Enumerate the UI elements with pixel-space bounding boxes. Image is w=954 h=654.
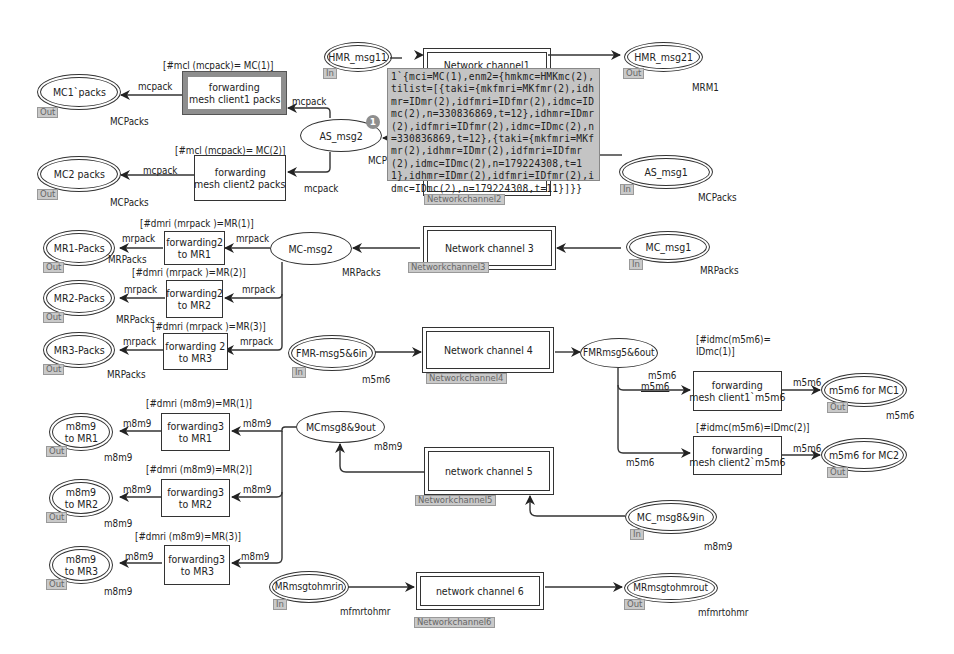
guard-label: IDmc(1)]: [696, 346, 735, 357]
transition-forwarding3-to-mr1[interactable]: forwarding3 to MR1: [161, 413, 230, 451]
port-tag-out: Out: [43, 364, 64, 375]
transition-forwarding2-to-mr1[interactable]: forwarding2 to MR1: [164, 231, 225, 265]
place-m5m6-for-mc1[interactable]: m5m6 for MC1: [824, 376, 904, 404]
substitution-network-channel-4[interactable]: Network channel 4: [426, 331, 550, 369]
place-mc-msg1[interactable]: MC_msg1: [629, 234, 707, 260]
arc-label: mrpack: [236, 233, 269, 244]
arc-label: mrpack: [242, 284, 275, 295]
guard-label: [#dmri (mrpack )=MR(2)]: [132, 267, 246, 278]
arc-label: mrpack: [122, 233, 155, 244]
place-mr1-packs[interactable]: MR1-Packs: [46, 233, 112, 263]
colorset-label: MRM1: [692, 82, 719, 93]
place-hmr-msg11[interactable]: HMR_msg11: [327, 45, 389, 69]
port-tag-out: Out: [624, 599, 645, 610]
arc-mc89in-nc5: [530, 496, 625, 516]
place-mrmsgtohmrin[interactable]: MRmsgtohmrin: [272, 574, 346, 600]
place-m8m9-to-mr2[interactable]: m8m9 to MR2: [52, 482, 110, 514]
place-mr3-packs[interactable]: MR3-Packs: [46, 335, 112, 365]
colorset-label: m8m9: [104, 518, 132, 529]
colorset-label: m8m9: [704, 541, 732, 552]
colorset-label: MRPacks: [108, 254, 147, 265]
arc-label: mrpack: [123, 336, 156, 347]
subpage-tag: Networkchannel4: [426, 373, 507, 384]
guard-label: [#dmri (mrpack )=MR(3)]: [152, 321, 266, 332]
transition-forwarding-mesh-client1-packs[interactable]: forwarding mesh client1 packs: [183, 72, 286, 114]
guard-label: [#mcl (mcpack)= MC(1)]: [163, 60, 273, 71]
colorset-label: mfmrtohmr: [698, 607, 748, 618]
place-mrmsgtohmrout[interactable]: MRmsgtohmrout: [627, 576, 715, 600]
arc-label: m8m9: [123, 418, 151, 429]
guard-label: [#idmc(m5m6)=: [696, 334, 771, 345]
substitution-network-channel-5[interactable]: network channel 5: [428, 451, 550, 491]
port-tag-out: Out: [623, 68, 644, 79]
place-mc-msg8-9in[interactable]: MC_msg8&9in: [628, 503, 714, 531]
port-tag-out: Out: [46, 579, 67, 590]
place-mc1-packs[interactable]: MC1`packs: [40, 77, 118, 107]
arc-label: m8m9: [123, 484, 151, 495]
arc-label: m8m9: [125, 551, 153, 562]
arc-label: m5m6: [793, 377, 821, 388]
transition-forwarding3-to-mr3[interactable]: forwarding3 to MR3: [164, 545, 230, 585]
port-tag-out: Out: [37, 189, 58, 200]
place-m8m9-to-mr3[interactable]: m8m9 to MR3: [52, 549, 110, 581]
subpage-tag: Networkchannel3: [408, 262, 489, 273]
guard-label: [#dmri (m8m9)=MR(1)]: [146, 398, 252, 409]
colorset-label: m8m9: [104, 586, 132, 597]
colorset-label: m8m9: [374, 441, 402, 452]
colorset-label: MRPacks: [700, 265, 739, 276]
place-mc2-packs[interactable]: MC2 packs: [40, 159, 118, 189]
arc-label: m5m6: [626, 457, 654, 468]
arc-label: mcpack: [143, 165, 177, 176]
place-mcmsg8-9out[interactable]: MCmsg8&9out: [296, 411, 385, 443]
transition-forwarding3-to-mr2[interactable]: forwarding3 to MR2: [161, 479, 230, 517]
transition-forwarding2-to-mr2[interactable]: forwarding2 to MR2: [166, 280, 223, 318]
subpage-tag: Networkchannel6: [414, 617, 495, 628]
substitution-network-channel-6[interactable]: network channel 6: [420, 576, 540, 606]
arc-asmsg2-fwd2: [288, 152, 330, 172]
port-tag-out: Out: [43, 262, 64, 273]
port-tag-in: In: [292, 367, 306, 378]
place-hmr-msg21[interactable]: HMR_msg21: [627, 45, 700, 69]
place-m5m6-for-mc2[interactable]: m5m6 for MC2: [824, 441, 904, 469]
transition-forwarding-mesh-client2-packs[interactable]: forwarding mesh client2 packs: [194, 155, 286, 201]
port-tag-in: In: [323, 68, 337, 79]
arc-label: m8m9: [243, 418, 271, 429]
arc-label: mcpack: [292, 96, 326, 107]
arc-label: m8m9: [241, 551, 269, 562]
transition-forwarding-mesh-client1-m5m6[interactable]: forwarding mesh client1`m5m6: [693, 371, 782, 411]
colorset-label: MRPacks: [107, 369, 146, 380]
port-tag-out: Out: [43, 312, 64, 323]
arc-asmsg2-fwd1: [288, 108, 330, 118]
guard-label: [#dmri (m8m9)=MR(3)]: [135, 531, 241, 542]
port-tag-out: Out: [46, 512, 67, 523]
arc-label: mcpack: [304, 183, 338, 194]
subpage-tag: Networkchannel2: [424, 194, 505, 205]
colorset-label: m5m6: [886, 410, 914, 421]
arc-label: m5m6: [793, 443, 821, 454]
colorset-label: m8m9: [104, 452, 132, 463]
colorset-label: MCPacks: [698, 192, 737, 203]
substitution-network-channel-3[interactable]: Network channel 3: [427, 230, 552, 266]
colorset-label: MCPacks: [110, 116, 149, 127]
arc-label: mcpack: [138, 81, 172, 92]
place-as-msg1[interactable]: AS_msg1: [622, 158, 710, 186]
place-mr2-packs[interactable]: MR2-Packs: [46, 283, 112, 313]
arc-label: m8m9: [243, 484, 271, 495]
place-m8m9-to-mr1[interactable]: m8m9 to MR1: [52, 416, 110, 448]
guard-label: [#idmc(m5m6)=IDmc(2)]: [696, 422, 810, 433]
port-tag-in: In: [620, 184, 634, 195]
transition-forwarding-mesh-client2-m5m6[interactable]: forwarding mesh client2`m5m6: [693, 436, 782, 475]
guard-label: [#dmri (m8m9)=MR(2)]: [146, 464, 252, 475]
guard-label: [#dmri (mrpack )=MR(1)]: [140, 218, 254, 229]
token-count-badge[interactable]: 1: [366, 115, 380, 129]
place-fmrmsg5-6out[interactable]: FMRmsg5&6out: [580, 338, 658, 368]
colorset-label: MRPacks: [342, 267, 381, 278]
arc-label: mrpack: [240, 336, 273, 347]
port-tag-out: Out: [46, 446, 67, 457]
port-tag-in: In: [273, 599, 287, 610]
marking-tooltip: 1`{mci=MC(1),enm2={hmkmc=HMKmc(2),tilist…: [387, 68, 600, 181]
place-fmr-msg5-6in[interactable]: FMR-msg5&6in: [291, 338, 373, 368]
transition-forwarding2-to-mr3[interactable]: forwarding 2 to MR3: [163, 333, 228, 370]
place-mc-msg2[interactable]: MC-msg2: [270, 232, 352, 265]
arc-label: mrpack: [124, 284, 157, 295]
